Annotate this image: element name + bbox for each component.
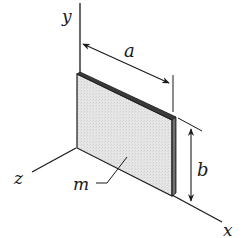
y-axis-label: y <box>61 6 72 26</box>
dimension-a-label: a <box>124 40 135 61</box>
x-axis-label: x <box>223 220 233 238</box>
mass-label: m <box>73 174 89 194</box>
plate-diagram: y z x a b m <box>0 0 245 238</box>
z-axis <box>32 148 76 172</box>
b-extension-line <box>178 118 202 131</box>
plate-face <box>77 74 172 196</box>
x-axis <box>172 195 222 222</box>
dimension-b-label: b <box>197 159 209 180</box>
z-axis-label: z <box>13 168 24 188</box>
